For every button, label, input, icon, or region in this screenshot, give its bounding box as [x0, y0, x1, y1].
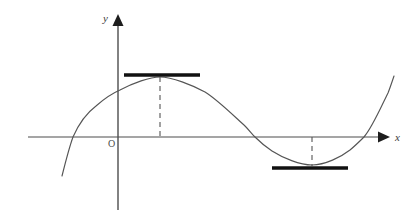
y-axis-group	[113, 14, 124, 210]
x-axis-group	[28, 132, 390, 143]
math-figure-canvas: y x O	[0, 0, 417, 223]
function-curve	[62, 76, 394, 176]
x-axis-label: x	[395, 132, 400, 143]
curve-plot-svg	[0, 0, 417, 223]
y-axis-arrowhead	[113, 14, 124, 26]
y-axis-label: y	[103, 13, 108, 24]
x-axis-arrowhead	[378, 132, 390, 143]
origin-label: O	[108, 139, 115, 149]
